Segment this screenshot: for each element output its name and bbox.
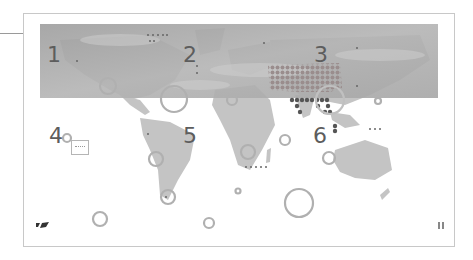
region-label-4: 4 bbox=[49, 125, 63, 147]
asia-dot-grid bbox=[268, 63, 342, 92]
region-label-1: 1 bbox=[47, 44, 61, 66]
region-label-2: 2 bbox=[183, 44, 197, 66]
region-label-3: 3 bbox=[314, 44, 328, 66]
region-label-5: 5 bbox=[183, 125, 197, 147]
people-icon bbox=[437, 221, 447, 231]
legend-inset-box bbox=[71, 140, 89, 155]
world-map bbox=[0, 0, 473, 260]
region-label-6: 6 bbox=[313, 125, 327, 147]
brand-logo-icon bbox=[36, 221, 50, 229]
